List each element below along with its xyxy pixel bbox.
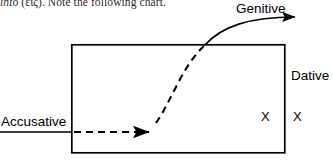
genitive-label: Genitive [236,1,286,16]
dative-label: Dative [291,68,329,83]
main-rectangle [72,45,285,153]
genitive-dashed-curve [156,45,205,123]
genitive-solid-curve-arrow [205,17,295,45]
x-mark-inside-box: X [261,110,270,123]
diagram-page: into (εἰς). Note the following chart. Ac… [0,0,333,160]
x-mark-outside-box: X [293,110,302,123]
accusative-label: Accusative [1,114,66,129]
case-flow-diagram [0,0,333,160]
